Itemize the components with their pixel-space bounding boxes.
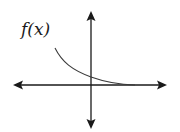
x-axis bbox=[13, 81, 167, 90]
function-label: f(x) bbox=[21, 19, 50, 39]
y-axis bbox=[87, 11, 96, 129]
function-curve bbox=[55, 48, 135, 85]
